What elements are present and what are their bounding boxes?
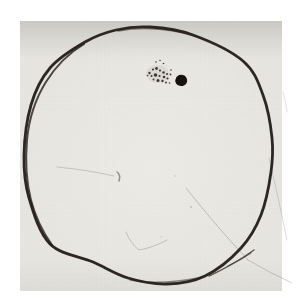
sunspot-drawing-scan — [0, 0, 297, 307]
minor-sunspot — [158, 75, 160, 77]
minor-sunspot — [163, 76, 166, 79]
minor-sunspot — [166, 73, 168, 75]
minor-sunspot — [153, 79, 155, 81]
minor-sunspot — [170, 69, 172, 71]
major-sunspot — [175, 75, 187, 86]
minor-sunspot — [165, 82, 167, 84]
paper-speck — [190, 206, 192, 208]
scanned-figure — [0, 0, 297, 307]
minor-sunspot — [169, 82, 171, 84]
minor-sunspot — [152, 68, 154, 70]
minor-sunspot — [154, 73, 158, 77]
minor-sunspot — [157, 79, 160, 82]
minor-sunspot — [161, 80, 163, 82]
minor-sunspot — [155, 67, 158, 70]
minor-sunspot — [151, 75, 153, 77]
minor-sunspot — [148, 72, 150, 74]
minor-sunspot — [155, 61, 157, 63]
minor-sunspot — [147, 75, 149, 77]
paper-speck — [160, 236, 161, 237]
minor-sunspot — [166, 77, 168, 79]
minor-sunspot — [162, 71, 164, 73]
minor-sunspot — [163, 63, 165, 65]
minor-sunspot — [159, 69, 161, 71]
paper-speck — [174, 175, 176, 177]
minor-sunspot — [159, 60, 160, 61]
minor-sunspot — [170, 74, 172, 76]
